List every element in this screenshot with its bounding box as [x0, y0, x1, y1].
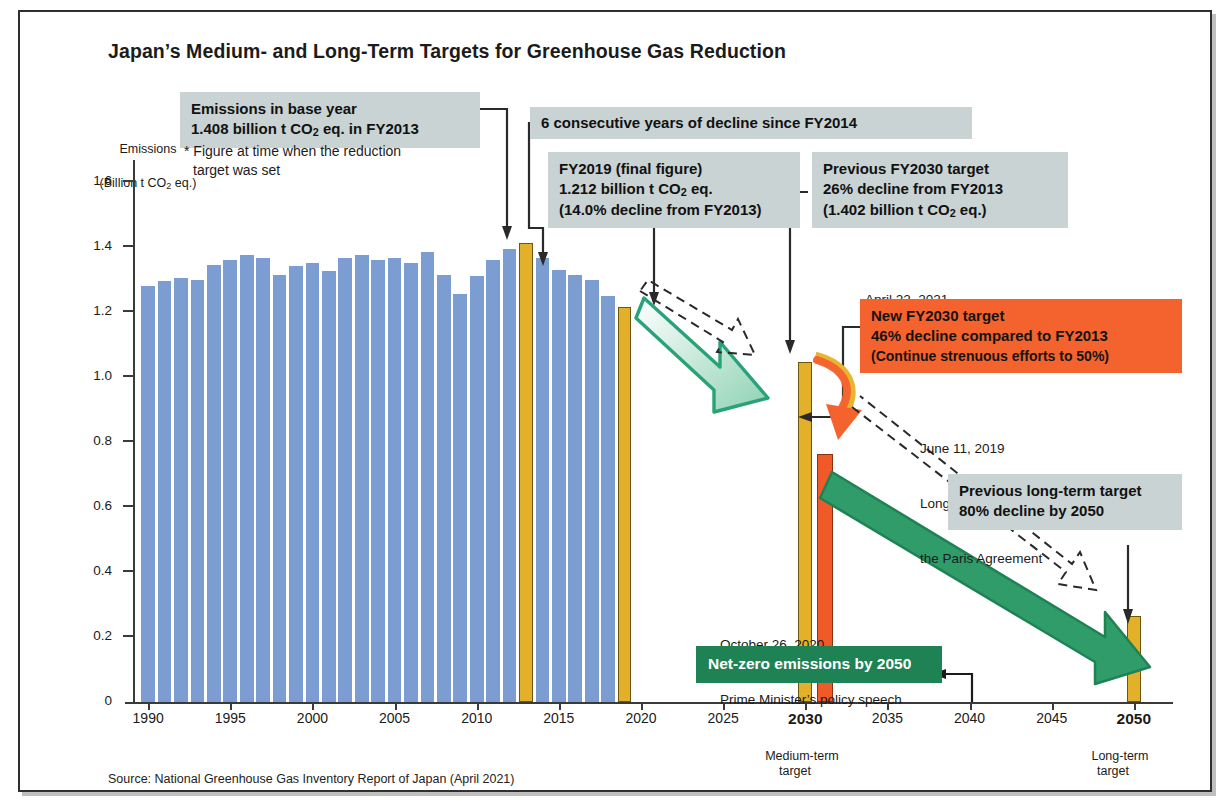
- bar-1997: [256, 258, 270, 702]
- bar-2002: [338, 258, 352, 702]
- bar-2000: [306, 263, 320, 702]
- bar-2012: [503, 249, 517, 702]
- bar-1994: [207, 265, 221, 702]
- bar-2019: [618, 307, 632, 702]
- source-note: Source: National Greenhouse Gas Inventor…: [108, 772, 514, 786]
- bar-2001: [322, 271, 336, 702]
- bar-1998: [273, 275, 287, 702]
- callout-base-year-line2: 1.408 billion t CO2 eq. in FY2013: [191, 119, 469, 140]
- bar-2015: [552, 270, 566, 702]
- bar-2011: [486, 260, 500, 702]
- callout-fy2019-line1: FY2019 (final figure): [559, 159, 789, 179]
- callout-fy2019-line2: 1.212 billion t CO2 eq.: [559, 179, 789, 200]
- bar-2010: [470, 276, 484, 702]
- bar-2050: [1127, 616, 1141, 702]
- bar-2013: [519, 243, 533, 702]
- note-june-2019-line1: June 11, 2019: [920, 440, 1072, 458]
- bar-1996: [240, 255, 254, 702]
- callout-new-2030-line2: 46% decline compared to FY2013: [871, 326, 1171, 346]
- callout-fy2019: FY2019 (final figure) 1.212 billion t CO…: [548, 152, 800, 228]
- bar-2016: [568, 275, 582, 702]
- callout-prev-long-term-line1: Previous long-term target: [959, 481, 1171, 501]
- callout-base-year-line1: Emissions in base year: [191, 99, 469, 119]
- bar-2018: [601, 296, 615, 702]
- callout-new-2030-line1: New FY2030 target: [871, 306, 1171, 326]
- bar-2003: [355, 255, 369, 702]
- bar-2009: [453, 294, 467, 702]
- callout-new-2030: New FY2030 target 46% decline compared t…: [860, 299, 1182, 373]
- callout-base-year: Emissions in base year 1.408 billion t C…: [180, 92, 480, 148]
- callout-new-2030-line3: (Continue strenuous efforts to 50%): [871, 347, 1171, 366]
- callout-net-zero-line1: Net-zero emissions by 2050: [708, 654, 930, 675]
- callout-prev-2030-line3: (1.402 billion t CO2 eq.): [823, 200, 1057, 221]
- bar-2008: [437, 275, 451, 702]
- callout-fy2019-line3: (14.0% decline from FY2013): [559, 200, 789, 220]
- callout-prev-long-term: Previous long-term target 80% decline by…: [948, 474, 1182, 530]
- callout-prev-2030-line1: Previous FY2030 target: [823, 159, 1057, 179]
- bar-1992: [174, 278, 188, 702]
- bar-1999: [289, 266, 303, 702]
- bar-1990: [141, 286, 155, 702]
- figure-frame: Japan’s Medium- and Long-Term Targets fo…: [18, 10, 1212, 792]
- bar-1995: [223, 260, 237, 702]
- callout-prev-2030: Previous FY2030 target 26% decline from …: [812, 152, 1068, 228]
- bar-1991: [158, 281, 172, 702]
- callout-six-years-line1: 6 consecutive years of decline since FY2…: [541, 113, 961, 133]
- note-june-2019-line3: the Paris Agreement: [920, 550, 1072, 568]
- callout-prev-long-term-line2: 80% decline by 2050: [959, 501, 1171, 521]
- callout-base-year-footnote: * Figure at time when the reduction targ…: [184, 142, 401, 180]
- bar-2017: [585, 280, 599, 702]
- screenshot-page: Japan’s Medium- and Long-Term Targets fo…: [0, 0, 1232, 810]
- bar-2014: [536, 258, 550, 702]
- note-october-2020-line2: Prime Minister’s policy speech: [720, 691, 902, 709]
- bar-2004: [371, 260, 385, 702]
- bar-2005: [388, 258, 402, 702]
- callout-six-years: 6 consecutive years of decline since FY2…: [530, 107, 972, 139]
- bar-2007: [421, 252, 435, 702]
- callout-prev-2030-line2: 26% decline from FY2013: [823, 179, 1057, 199]
- bar-2006: [404, 263, 418, 702]
- callout-net-zero: Net-zero emissions by 2050: [696, 646, 942, 683]
- bar-1993: [191, 280, 205, 702]
